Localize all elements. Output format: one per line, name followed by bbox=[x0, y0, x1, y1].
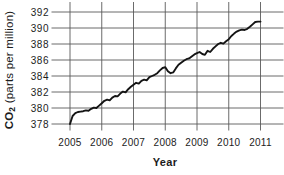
y-tick-label: 390 bbox=[16, 22, 49, 35]
y-axis-title-subscript: 2 bbox=[7, 107, 17, 112]
x-tick-label: 2008 bbox=[148, 136, 182, 149]
y-tick-label: 384 bbox=[16, 70, 49, 83]
y-tick-label: 392 bbox=[16, 6, 49, 19]
y-tick-label: 378 bbox=[16, 118, 49, 131]
x-axis-title: Year bbox=[153, 156, 177, 168]
x-tick-label: 2011 bbox=[244, 136, 278, 149]
y-axis-title: CO2 (parts per million) bbox=[3, 11, 17, 130]
y-tick-label: 386 bbox=[16, 54, 49, 67]
x-tick-label: 2007 bbox=[117, 136, 151, 149]
y-tick-label: 382 bbox=[16, 86, 49, 99]
y-tick-label: 388 bbox=[16, 38, 49, 51]
y-axis-title-chem: CO bbox=[3, 112, 15, 130]
x-tick-label: 2006 bbox=[85, 136, 119, 149]
x-tick-label: 2010 bbox=[212, 136, 246, 149]
y-axis-title-units: (parts per million) bbox=[3, 11, 15, 107]
x-tick-label: 2009 bbox=[180, 136, 214, 149]
x-tick-label: 2005 bbox=[53, 136, 87, 149]
co2-line-chart: 3783803823843863883903922005200620072008… bbox=[0, 0, 284, 175]
y-tick-label: 380 bbox=[16, 102, 49, 115]
